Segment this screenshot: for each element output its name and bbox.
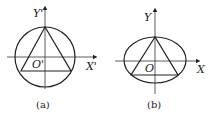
x-axis-label-b: X (197, 64, 205, 75)
y-axis-label-b: Y (144, 12, 151, 23)
caption-a: (a) (36, 100, 50, 110)
x-axis-label-a: X' (86, 61, 97, 72)
figure-a (7, 8, 95, 89)
caption-b: (b) (147, 100, 161, 110)
y-axis-label-a: Y' (33, 8, 43, 19)
figure-b (115, 10, 198, 94)
triangle-b (131, 37, 178, 75)
origin-label-a: O' (32, 59, 44, 70)
origin-label-b: O (145, 63, 154, 74)
